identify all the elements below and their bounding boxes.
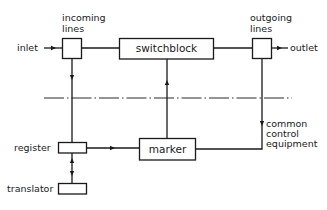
outgoing-lines-label-1: outgoing [250, 12, 292, 23]
translator-to-register-arrow-icon [70, 158, 74, 163]
inlet-label: inlet [17, 42, 38, 53]
outgoing-lines-box [253, 39, 272, 59]
incoming-lines-box [63, 39, 82, 59]
switching-system-block-diagram: inlet incoming lines switchblock outgoin… [0, 0, 327, 210]
common-control-arrow-icon [260, 121, 264, 126]
register-label: register [14, 142, 51, 153]
outlet-arrow-icon [277, 46, 282, 50]
translator-label: translator [7, 183, 53, 194]
incoming-lines-label-1: incoming [62, 12, 106, 23]
incoming-to-register-arrow-icon [70, 75, 74, 80]
switchblock-label: switchblock [136, 42, 198, 54]
common-control-label-3: equipment [266, 138, 318, 149]
translator-box [59, 184, 87, 195]
outgoing-lines-label-2: lines [250, 23, 272, 34]
register-box [59, 143, 87, 154]
outgoing-to-marker-line [196, 59, 263, 150]
marker-label: marker [149, 143, 187, 155]
outlet-label: outlet [290, 42, 318, 53]
marker-to-switchblock-arrow-icon [165, 80, 169, 85]
incoming-lines-label-2: lines [62, 23, 84, 34]
inlet-arrow-icon [51, 46, 56, 50]
register-to-translator-arrow-icon [70, 171, 74, 176]
register-to-marker-arrow-icon [110, 146, 115, 150]
